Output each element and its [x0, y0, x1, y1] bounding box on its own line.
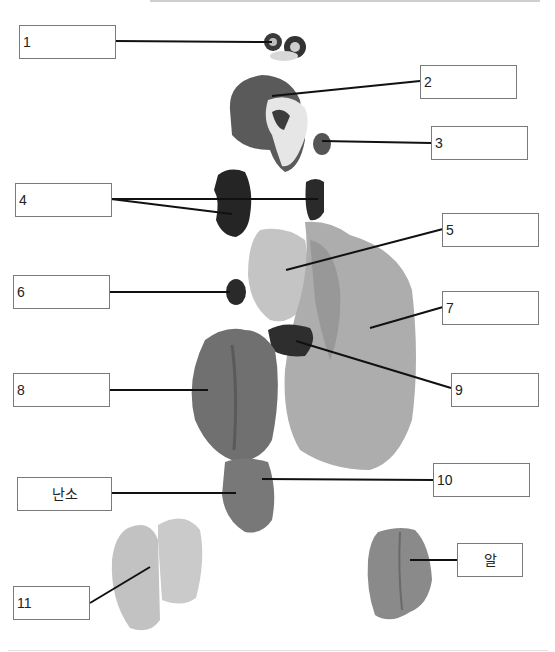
label-text: 2 [424, 75, 432, 89]
label-box-11[interactable]: 11 [13, 586, 90, 620]
label-box-2[interactable]: 2 [420, 65, 517, 99]
label-text: 6 [17, 285, 25, 299]
label-text: 10 [437, 473, 453, 487]
leader-4b [111, 199, 232, 214]
label-box-5[interactable]: 5 [442, 213, 539, 247]
organ-3 [313, 133, 331, 155]
label-box-7[interactable]: 7 [442, 291, 539, 325]
organ-2 [230, 75, 308, 172]
label-box-10[interactable]: 10 [433, 463, 530, 497]
leader-2 [272, 81, 420, 96]
label-text: 알 [484, 553, 497, 567]
label-text: 8 [17, 383, 25, 397]
label-text: 1 [23, 35, 31, 49]
organ-1 [264, 33, 306, 61]
leader-1 [115, 41, 272, 42]
label-text: 9 [455, 383, 463, 397]
label-text: 11 [17, 596, 32, 610]
label-box-6[interactable]: 6 [13, 275, 110, 309]
ovary-organ [222, 459, 274, 533]
label-box-ovary[interactable]: 난소 [17, 477, 112, 511]
label-text: 3 [435, 136, 443, 150]
organ-11 [112, 519, 202, 631]
egg-organ [368, 528, 432, 619]
label-text: 4 [19, 193, 27, 207]
label-box-9[interactable]: 9 [451, 373, 539, 407]
label-box-1[interactable]: 1 [19, 25, 116, 59]
label-text: 난소 [52, 487, 78, 501]
label-box-8[interactable]: 8 [13, 373, 110, 407]
label-box-3[interactable]: 3 [431, 126, 528, 160]
label-text: 5 [446, 223, 454, 237]
label-box-egg[interactable]: 알 [457, 543, 523, 577]
label-box-4[interactable]: 4 [15, 183, 112, 217]
label-text: 7 [446, 301, 454, 315]
leader-3 [322, 141, 431, 143]
leader-10 [262, 479, 433, 480]
